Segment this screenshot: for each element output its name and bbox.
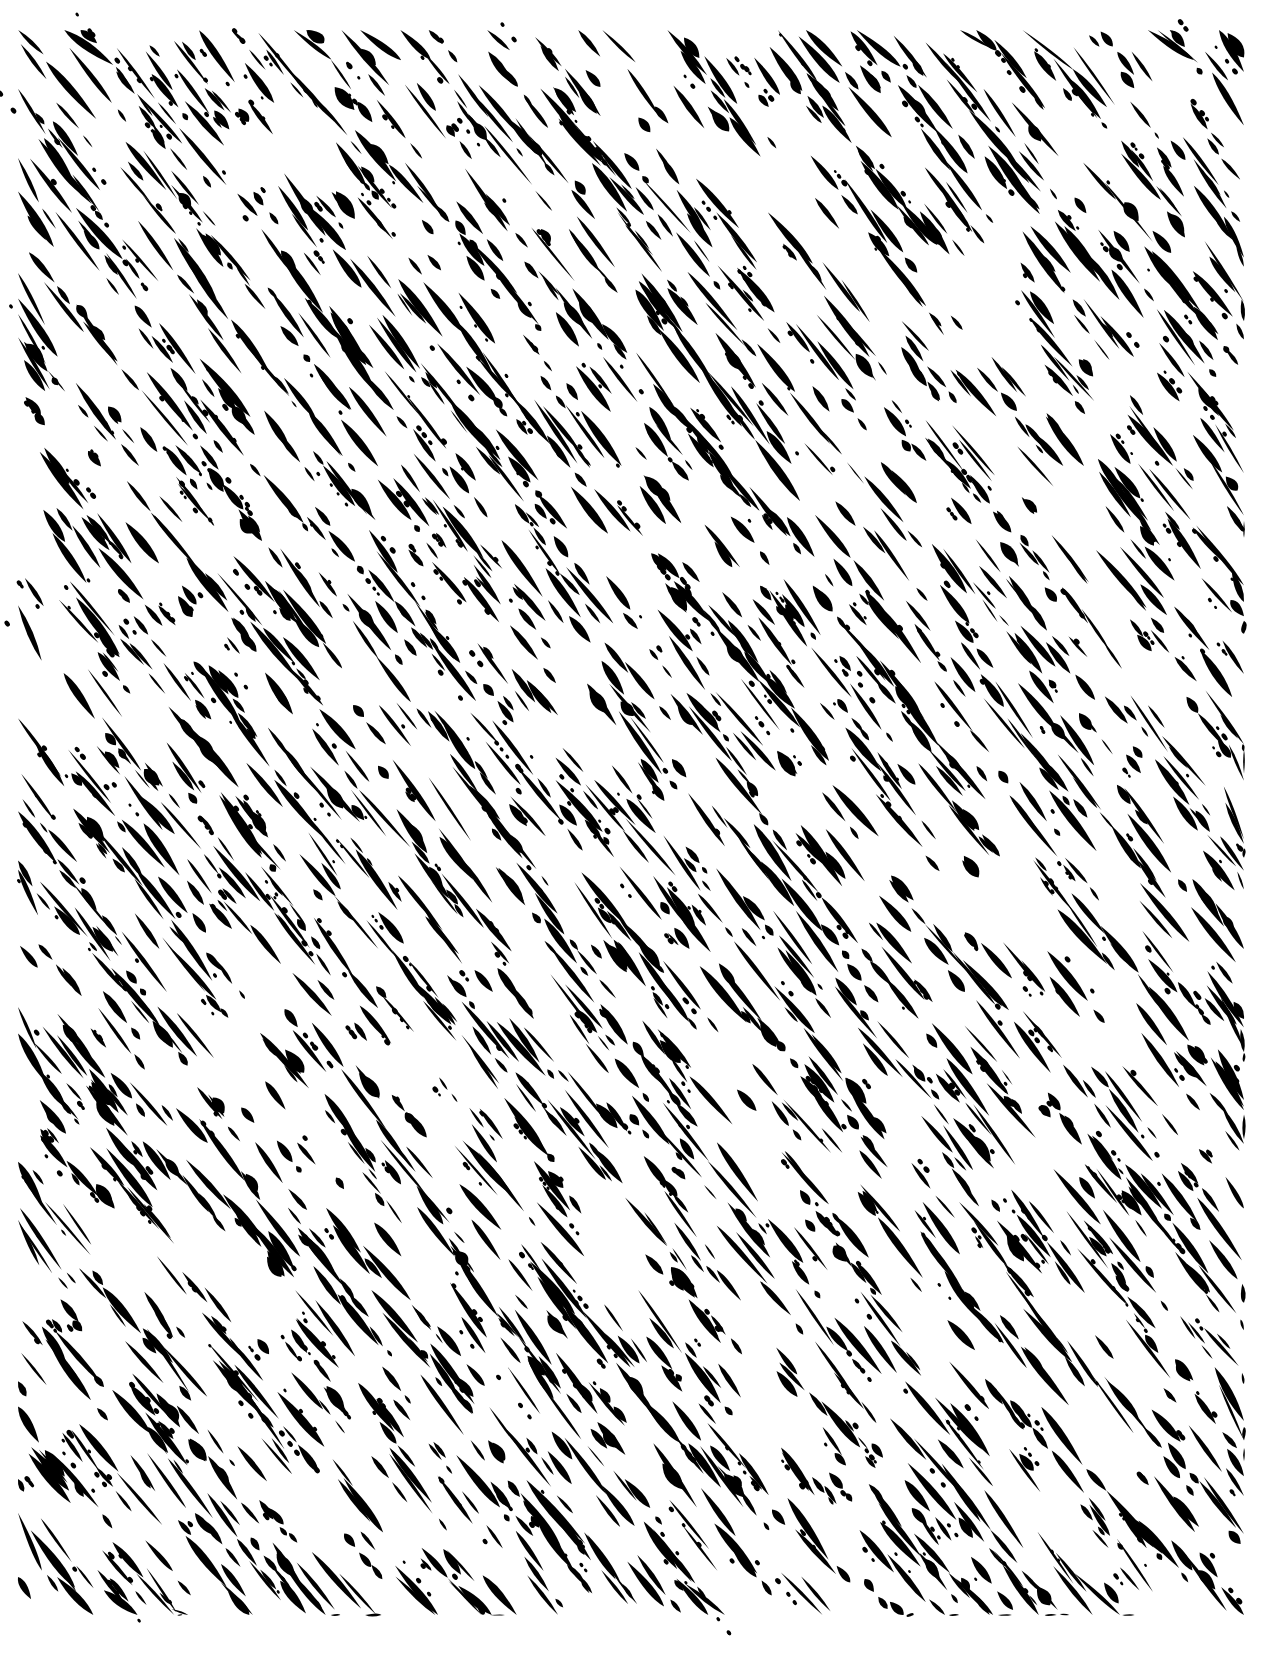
stroke-texture [0,0,1264,1657]
